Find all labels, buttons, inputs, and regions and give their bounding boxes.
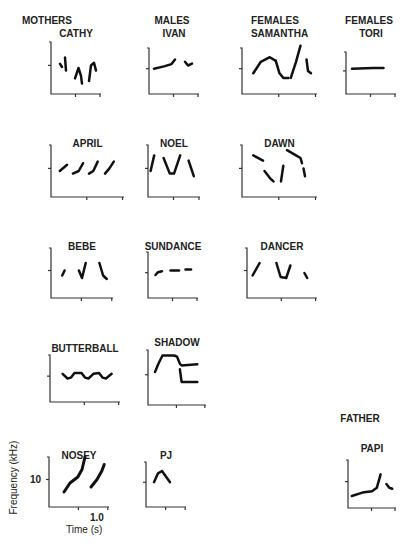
panel-samantha [238,48,317,100]
axes-nosey [47,457,109,507]
axes-papi [346,460,396,508]
panel-dancer [243,248,317,304]
panel-title-samantha: SAMANTHA [251,28,308,39]
group-label-females-1: FEMALES [251,15,299,26]
y-axis-label-text: Frequency (kHz) [8,441,19,515]
panel-title-ivan: IVAN [162,28,185,39]
call-trace-dawn-2 [281,166,283,182]
panel-title-cathy: CATHY [59,28,93,39]
call-trace-butterball-0 [63,373,112,379]
call-trace-papi-0 [352,474,381,496]
call-trace-noel-1 [164,155,181,173]
panel-april [47,145,124,203]
call-trace-bebe-0 [62,271,64,276]
call-trace-april-2 [89,162,98,174]
call-trace-bebe-1 [79,263,86,278]
call-trace-dawn-1 [265,171,274,181]
call-trace-dancer-2 [304,273,307,278]
call-trace-dawn-4 [304,168,306,176]
axes-butterball [48,355,120,402]
panel-title-shadow: SHADOW [154,337,200,348]
call-trace-shadow-1 [180,369,197,382]
call-trace-nosey-1 [91,465,104,488]
group-label-males: MALES [155,15,190,26]
panel-nosey [45,457,109,513]
axes-tori [344,52,396,94]
y-axis-label: Frequency (kHz) [8,445,19,515]
call-trace-cathy-2 [75,68,82,84]
panel-shadow [144,350,206,411]
call-trace-dancer-1 [276,263,290,278]
axes-pj [144,462,186,507]
group-label-mothers: MOTHERS [22,15,72,26]
panel-title-tori: TORI [359,28,383,39]
panel-title-papi: PAPI [361,443,384,454]
axes-sundance [146,252,198,298]
axes-dancer [245,248,317,298]
panel-butterball [46,355,120,408]
y-tick-label: 10 [30,474,41,485]
panel-cathy [47,42,101,100]
panel-papi [344,460,396,514]
call-trace-tori-0 [352,68,384,69]
call-trace-april-1 [73,163,83,173]
axes-cathy [49,42,101,94]
call-trace-cathy-1 [65,58,66,71]
panel-dawn [238,145,317,203]
group-label-father: FATHER [340,413,379,424]
call-trace-cathy-0 [60,64,62,67]
panel-ivan [145,48,199,100]
call-trace-april-3 [105,162,114,174]
call-trace-noel-2 [189,161,194,177]
call-trace-papi-1 [386,484,392,489]
axes-shadow [146,350,206,405]
call-trace-ivan-0 [154,60,175,69]
call-trace-samantha-1 [276,61,289,78]
call-trace-samantha-2 [291,46,301,78]
x-axis-label: Time (s) [66,524,102,535]
panel-title-butterball: BUTTERBALL [51,343,118,354]
call-trace-shadow-0 [155,356,197,373]
call-trace-cathy-3 [89,63,96,81]
call-trace-noel-0 [151,155,155,171]
call-trace-pj-0 [154,471,170,482]
call-trace-dancer-0 [253,263,260,276]
call-trace-april-0 [60,165,67,171]
panel-noel [144,145,200,203]
call-trace-sundance-0 [156,271,163,275]
call-trace-samantha-0 [253,57,275,73]
call-trace-bebe-2 [99,263,106,279]
panel-tori [342,52,396,100]
call-trace-dawn-3 [287,150,302,163]
axes-ivan [147,48,199,94]
group-label-females-2: FEMALES [345,15,393,26]
panel-pj [142,462,186,513]
panel-title-pj: PJ [160,450,172,461]
axes-dawn [240,145,317,197]
call-trace-nosey-0 [64,457,85,492]
panel-bebe [47,248,113,304]
call-trace-ivan-1 [185,62,192,66]
x-tick-label: 1.0 [90,512,104,523]
call-trace-dawn-0 [253,155,263,160]
call-trace-samantha-3 [307,60,312,74]
panel-sundance [144,252,198,304]
panel-title-sundance: SUNDANCE [145,241,202,252]
